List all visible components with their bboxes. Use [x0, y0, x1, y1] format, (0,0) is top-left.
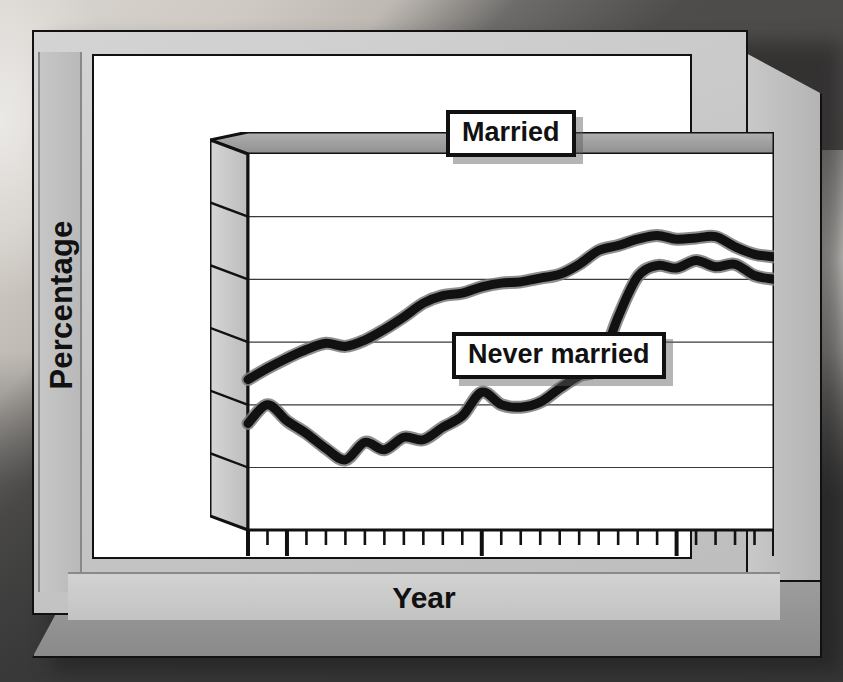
svg-text:2005: 2005 — [744, 561, 774, 562]
y-axis-title: Percentage — [44, 175, 80, 435]
svg-text:1980: 1980 — [261, 561, 317, 562]
x-axis-title: Year — [68, 581, 780, 615]
x-axis-title-band: Year — [68, 572, 780, 620]
x-axis-ticks — [248, 530, 774, 556]
chart-panel: Percentage — [32, 30, 748, 615]
series-label-never-married: Never married — [452, 332, 666, 379]
chart-card: 80 70 60 50 40 30 1978 1980 1990 2000 20… — [92, 54, 692, 559]
svg-text:2000: 2000 — [649, 561, 705, 562]
y-axis-title-band: Percentage — [38, 52, 82, 592]
series-label-married: Married — [446, 110, 576, 157]
x-axis-tick-labels: 1978 1980 1990 2000 2005 — [222, 561, 774, 562]
svg-text:1990: 1990 — [455, 561, 511, 562]
